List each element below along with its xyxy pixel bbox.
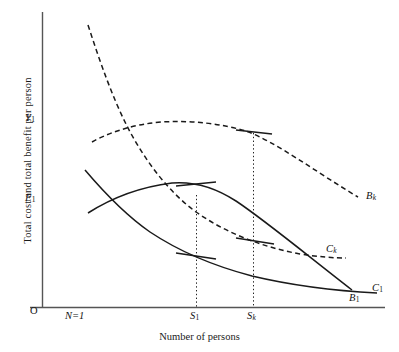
curve-label-c1: C1 <box>372 282 383 294</box>
chart-canvas <box>0 0 399 352</box>
x-tick-s1: S1 <box>190 310 199 322</box>
chart-figure: Total cost and total benefit per person … <box>0 0 399 352</box>
curve-ck <box>88 25 346 258</box>
curve-label-ck: Ck <box>326 243 337 255</box>
origin-label: O <box>30 305 38 316</box>
x-tick-n-equals-1: N=1 <box>65 310 84 321</box>
y-axis-title: Total cost and total benefit per person <box>22 46 33 276</box>
curve-bk <box>92 121 358 197</box>
x-tick-sk: Sk <box>247 310 256 322</box>
tangent-s1-c1 <box>176 253 216 259</box>
curve-label-b1: B1 <box>349 292 359 304</box>
y-tick-e1: E1 <box>25 192 35 204</box>
y-tick-y1: Y1 <box>25 112 35 124</box>
curve-label-bk: Bk <box>366 190 376 202</box>
curve-b1 <box>88 183 352 290</box>
tangent-sk-ck <box>236 238 274 244</box>
x-axis-title: Number of persons <box>0 331 399 342</box>
